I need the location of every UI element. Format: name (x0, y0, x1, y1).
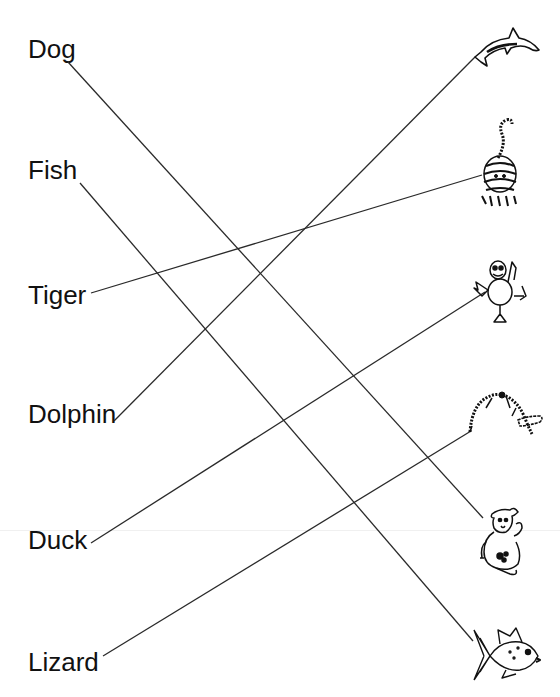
tiger-icon (472, 114, 532, 210)
dog-icon (470, 502, 540, 580)
match-line-dog[interactable] (68, 62, 483, 518)
dolphin-icon (465, 22, 545, 72)
lizard-icon (466, 386, 560, 442)
match-line-fish[interactable] (80, 183, 473, 641)
fish-icon (470, 622, 550, 692)
match-line-tiger[interactable] (91, 175, 482, 293)
duck-icon (468, 256, 534, 326)
match-line-duck[interactable] (91, 292, 485, 543)
match-line-lizard[interactable] (103, 431, 471, 656)
match-line-dolphin[interactable] (114, 57, 475, 421)
match-lines (0, 0, 560, 697)
